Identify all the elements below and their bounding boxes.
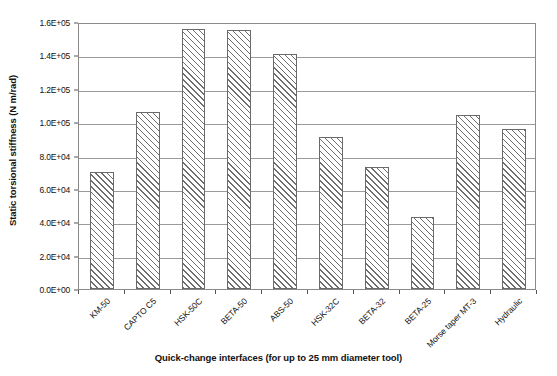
y-tick-label: 6.0E+04 <box>39 185 70 195</box>
x-tick-label: HSK-32C <box>309 296 341 328</box>
y-tick-label: 1.0E+05 <box>39 118 70 128</box>
x-tick-label: BETA-25 <box>402 296 433 327</box>
x-tick-label: Hydraulic <box>493 296 524 327</box>
bar-morse-taper-mt-3 <box>456 115 480 289</box>
plot-area <box>78 23 536 290</box>
bar-beta-50 <box>227 30 251 289</box>
y-axis-title: Static torsional stiffness (N m/rad) <box>0 0 26 300</box>
y-tick-label: 1.6E+05 <box>39 18 70 28</box>
bar-hsk-32c <box>319 137 343 289</box>
bar-capto-c5 <box>136 112 160 289</box>
y-axis-tick-labels: 0.0E+002.0E+044.0E+046.0E+048.0E+041.0E+… <box>26 23 74 290</box>
x-axis-tick-labels: KM-50CAPTO C5HSK-50CBETA-50ABS-50HSK-32C… <box>78 290 536 352</box>
bar-beta-25 <box>411 217 435 289</box>
y-tick-label: 2.0E+04 <box>39 252 70 262</box>
bar-beta-32 <box>365 167 389 289</box>
x-tick-label: CAPTO C5 <box>121 296 157 332</box>
y-tick-label: 4.0E+04 <box>39 218 70 228</box>
x-tick-label: BETA-32 <box>356 296 387 327</box>
x-tick-mark <box>536 290 537 294</box>
y-axis-title-text: Static torsional stiffness (N m/rad) <box>8 74 19 225</box>
x-tick-label: ABS-50 <box>268 296 295 323</box>
x-tick-label: BETA-50 <box>219 296 250 327</box>
bar-series <box>79 24 535 289</box>
bar-hydraulic <box>502 129 526 289</box>
x-tick-label: Morse taper MT-3 <box>425 296 478 349</box>
y-tick-label: 0.0E+00 <box>39 285 70 295</box>
x-axis-title: Quick-change interfaces (for up to 25 mm… <box>0 352 557 363</box>
bar-hsk-50c <box>182 29 206 289</box>
y-tick-label: 8.0E+04 <box>39 152 70 162</box>
y-tick-label: 1.4E+05 <box>39 51 70 61</box>
bar-km-50 <box>90 172 114 289</box>
x-tick-label: HSK-50C <box>172 296 204 328</box>
x-tick-label: KM-50 <box>88 296 112 320</box>
bar-abs-50 <box>273 54 297 289</box>
y-tick-label: 1.2E+05 <box>39 85 70 95</box>
